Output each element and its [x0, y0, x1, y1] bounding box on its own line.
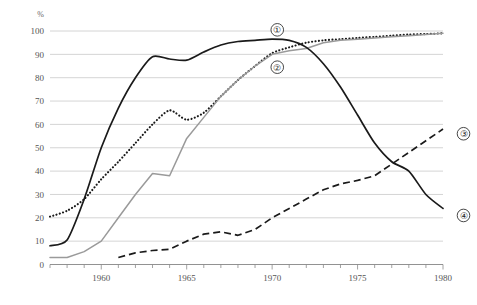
x-tick-label-1960: 1960 [92, 273, 111, 283]
series-key-①: ① [271, 24, 284, 37]
series-lines [50, 33, 443, 257]
chart-container: 0102030405060708090100 % 196019651970197… [0, 0, 477, 305]
series-key-label: ④ [460, 211, 468, 221]
y-tick-label-10: 10 [35, 236, 45, 246]
series-key-②: ② [271, 61, 284, 74]
series-key-label: ③ [460, 129, 468, 139]
y-tick-label-20: 20 [35, 213, 45, 223]
y-tick-label-0: 0 [40, 260, 45, 270]
y-tick-label-80: 80 [35, 73, 45, 83]
y-tick-label-60: 60 [35, 120, 45, 130]
series-key-annotations: ①②③④ [271, 24, 470, 222]
x-tick-label-1980: 1980 [434, 273, 453, 283]
y-tick-label-30: 30 [35, 190, 45, 200]
y-axis-unit-label: % [37, 10, 44, 19]
y-tick-label-100: 100 [31, 26, 45, 36]
x-axis [50, 265, 443, 270]
series-key-③: ③ [457, 127, 470, 140]
y-tick-label-90: 90 [35, 50, 45, 60]
y-axis-tick-labels: 0102030405060708090100 [31, 26, 45, 270]
series-line-3 [118, 129, 443, 257]
series-line-1 [50, 33, 443, 216]
x-tick-label-1970: 1970 [263, 273, 282, 283]
y-tick-label-70: 70 [35, 96, 45, 106]
series-line-4 [50, 39, 443, 246]
y-tick-label-40: 40 [35, 166, 45, 176]
series-key-④: ④ [457, 209, 470, 222]
series-key-label: ① [273, 25, 281, 35]
x-tick-label-1965: 1965 [178, 273, 197, 283]
series-line-2 [50, 33, 443, 257]
x-axis-tick-labels: 19601965197019751980 [92, 273, 452, 283]
series-key-label: ② [273, 63, 281, 73]
y-tick-label-50: 50 [35, 143, 45, 153]
x-tick-label-1975: 1975 [349, 273, 368, 283]
line-chart: 0102030405060708090100 % 196019651970197… [0, 0, 477, 305]
